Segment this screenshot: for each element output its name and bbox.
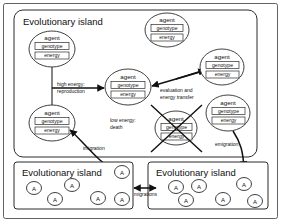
- agent-top-center[interactable]: agent genotype energy: [145, 13, 189, 47]
- mini-agent[interactable]: A: [91, 192, 106, 205]
- mini-agent[interactable]: A: [179, 194, 194, 207]
- mini-agent-glyph: A: [120, 197, 124, 203]
- reproduction-label-line1: high energy:: [57, 81, 85, 87]
- agent-dead[interactable]: agent genotype energy: [151, 105, 202, 152]
- mini-agent-glyph: A: [184, 198, 188, 204]
- agent-right-upper-title: agent: [214, 53, 230, 60]
- mini-agent[interactable]: A: [237, 178, 252, 191]
- mini-agent-glyph: A: [53, 197, 57, 203]
- mini-agent-glyph: A: [221, 197, 225, 203]
- mini-agent-glyph: A: [242, 182, 246, 188]
- mini-agent[interactable]: A: [65, 179, 80, 192]
- agent-top-left-title: agent: [44, 34, 60, 41]
- agent-right-lower-title: agent: [220, 99, 236, 106]
- agent-dead-title: agent: [168, 115, 184, 122]
- agent-right-lower-genotype: genotype: [218, 108, 239, 114]
- mini-agent-glyph: A: [32, 186, 36, 192]
- evaluation-label-line2: energy transfer: [160, 94, 194, 100]
- agent-right-upper[interactable]: agent genotype energy: [200, 49, 244, 85]
- mini-agent[interactable]: A: [115, 193, 130, 206]
- agent-right-upper-genotype: genotype: [212, 62, 233, 68]
- agent-left-lower-energy: energy: [44, 127, 60, 133]
- main-island-title: Evolutionary island: [23, 16, 103, 27]
- mini-agent-glyph: A: [253, 199, 257, 205]
- migrations-label: migrations: [134, 191, 158, 197]
- mini-agent-glyph: A: [174, 185, 178, 191]
- agent-right-lower-energy: energy: [221, 117, 237, 123]
- bottom-left-island-title: Evolutionary island: [22, 167, 102, 178]
- diagram-canvas: Evolutionary island high energy: reprodu…: [0, 0, 281, 222]
- diagram-root: Evolutionary island high energy: reprodu…: [0, 0, 281, 222]
- agent-left-lower[interactable]: agent genotype energy: [29, 105, 75, 141]
- agent-left-lower-genotype: genotype: [42, 118, 63, 124]
- mini-agent[interactable]: A: [27, 182, 42, 195]
- mini-agent-glyph: A: [120, 170, 124, 176]
- agent-center-title: agent: [120, 73, 136, 80]
- mini-agent[interactable]: A: [48, 193, 63, 206]
- mini-agent-glyph: A: [70, 183, 74, 189]
- mini-agent-glyph: A: [96, 196, 100, 202]
- agent-center-genotype: genotype: [118, 82, 139, 88]
- agent-left-lower-title: agent: [44, 109, 60, 116]
- death-label-line1: low energy:: [110, 117, 136, 123]
- mini-agent[interactable]: A: [192, 180, 207, 193]
- agent-top-left-genotype: genotype: [42, 43, 63, 49]
- mini-agent[interactable]: A: [248, 195, 263, 208]
- agent-right-upper-energy: energy: [215, 71, 231, 77]
- mini-agent[interactable]: A: [169, 181, 184, 194]
- mini-agent[interactable]: A: [216, 193, 231, 206]
- agent-right-lower[interactable]: agent genotype energy: [206, 95, 250, 131]
- agent-top-left[interactable]: agent genotype energy: [29, 31, 75, 67]
- agent-top-center-energy: energy: [159, 34, 175, 40]
- immigration-label: imigration: [83, 145, 105, 151]
- agent-top-left-energy: energy: [44, 52, 60, 58]
- bottom-right-island-title: Evolutionary island: [156, 167, 236, 178]
- death-label-line2: death: [110, 124, 123, 130]
- mini-agent[interactable]: A: [115, 166, 130, 179]
- agent-top-center-genotype: genotype: [157, 25, 178, 31]
- mini-agent-glyph: A: [197, 184, 201, 190]
- agent-center-energy: energy: [120, 91, 136, 97]
- emigration-label: emigration: [215, 141, 239, 147]
- evaluation-label-line1: evaluation and: [160, 87, 193, 93]
- reproduction-label-line2: reproduction: [57, 88, 85, 94]
- agent-center[interactable]: agent genotype energy: [105, 69, 151, 105]
- agent-top-center-title: agent: [159, 16, 175, 23]
